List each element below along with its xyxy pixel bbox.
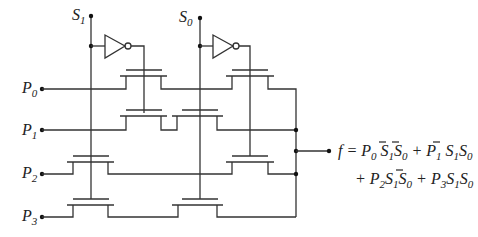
output-node [294, 149, 331, 153]
row-p3 [40, 199, 296, 219]
row-p1 [40, 110, 298, 132]
label-p1: P1 [21, 121, 37, 141]
output-equation-line2: + P2S1S0 + P3S1S0 [355, 170, 474, 190]
s1-line [89, 14, 105, 199]
inverter-s1-icon [105, 35, 144, 113]
output-equation-line1: f = P0 S1S0 + P1 S1S0 [338, 142, 473, 162]
mux-circuit-diagram: S1 S0 P0 P1 P2 P3 [0, 0, 478, 237]
s0-line [198, 16, 213, 199]
label-p3: P3 [21, 207, 38, 227]
label-p0: P0 [21, 79, 38, 99]
row-p0 [40, 70, 296, 217]
label-s1: S1 [72, 6, 86, 26]
row-p2 [40, 156, 298, 176]
label-s0: S0 [179, 8, 193, 28]
label-p2: P2 [21, 164, 38, 184]
inverter-s0-icon [213, 35, 250, 156]
